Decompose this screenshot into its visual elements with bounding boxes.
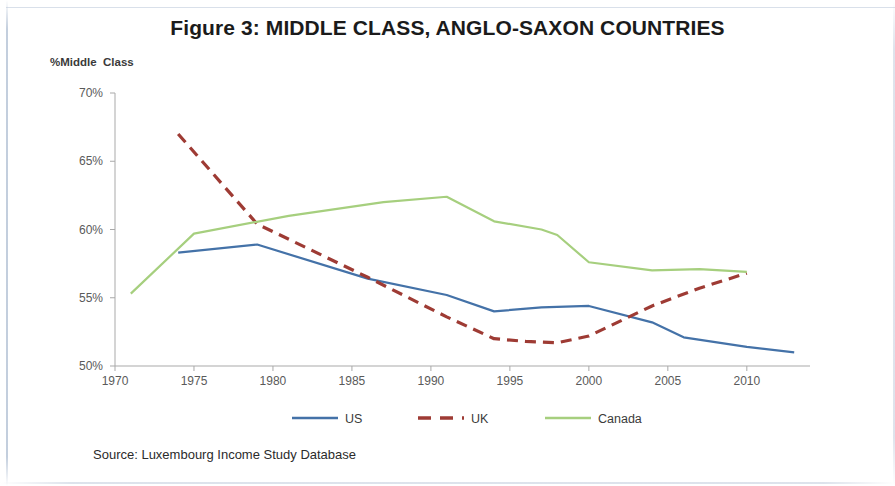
x-axis: 197019751980198519901995200020052010 xyxy=(102,366,810,388)
y-tick-label: 70% xyxy=(79,86,103,100)
x-tick-label: 1975 xyxy=(181,374,208,388)
series-line-uk xyxy=(178,134,747,343)
series-line-us xyxy=(178,245,794,353)
line-chart: 50%55%60%65%70% 197019751980198519901995… xyxy=(0,0,895,486)
y-tick-label: 60% xyxy=(79,223,103,237)
x-tick-label: 1970 xyxy=(102,374,129,388)
y-axis: 50%55%60%65%70% xyxy=(79,86,115,373)
y-tick-label: 55% xyxy=(79,291,103,305)
legend-label-canada: Canada xyxy=(598,412,642,426)
x-tick-label: 1985 xyxy=(339,374,366,388)
figure-page: Figure 3: MIDDLE CLASS, ANGLO-SAXON COUN… xyxy=(0,0,895,486)
x-tick-label: 1995 xyxy=(497,374,524,388)
y-tick-label: 65% xyxy=(79,154,103,168)
source-note: Source: Luxembourg Income Study Database xyxy=(93,447,356,462)
x-tick-label: 2000 xyxy=(576,374,603,388)
legend-label-uk: UK xyxy=(471,412,489,426)
chart-legend: USUKCanada xyxy=(292,412,642,426)
y-tick-label: 50% xyxy=(79,359,103,373)
x-tick-label: 2010 xyxy=(733,374,760,388)
x-tick-label: 1990 xyxy=(418,374,445,388)
legend-label-us: US xyxy=(345,412,362,426)
series-lines xyxy=(131,134,794,352)
x-tick-label: 2005 xyxy=(654,374,681,388)
x-tick-label: 1980 xyxy=(260,374,287,388)
series-line-canada xyxy=(131,197,747,294)
